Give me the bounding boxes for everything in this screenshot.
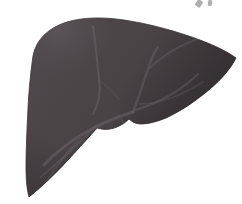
left-lobe-taper-shadow [120,0,242,140]
liver-vector-figure [0,0,242,204]
inferior-tip-shadow [0,120,130,204]
liver-illustration-canvas: Liver anterior view [0,0,242,204]
pen-stroke-upper-right-b-icon [208,0,213,6]
